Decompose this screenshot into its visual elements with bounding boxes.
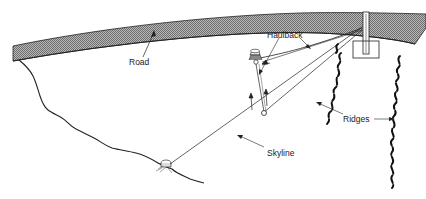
ridge-right — [391, 56, 400, 188]
road-label: Road — [129, 58, 149, 67]
carriage — [262, 111, 267, 116]
ridges-label: Ridges — [343, 115, 369, 124]
diagram-graphic — [0, 0, 426, 199]
ridge-left — [327, 53, 341, 124]
skyline-label: Skyline — [267, 149, 294, 158]
mainline-cable — [263, 30, 362, 113]
slope-profile — [19, 60, 204, 183]
haulback-label: Haulback — [267, 31, 302, 40]
haulback-leader-1 — [260, 38, 279, 73]
tail-stump — [156, 160, 172, 173]
skyline-diagram: Road Haulback Skyline Ridges — [0, 0, 426, 199]
skyline-leader — [240, 136, 264, 147]
haulback-stump — [249, 49, 262, 64]
